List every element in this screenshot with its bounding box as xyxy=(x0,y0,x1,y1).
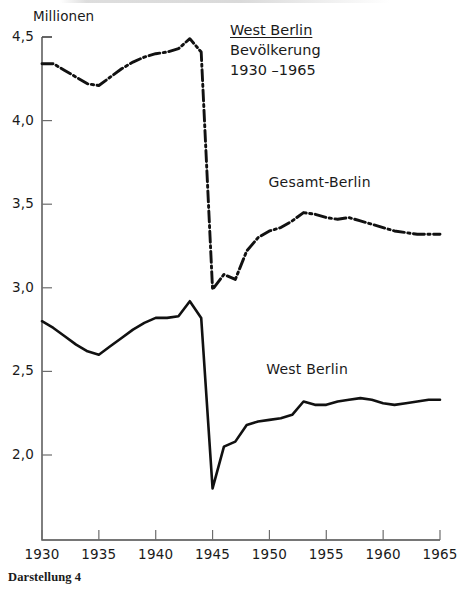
chart-title-block: West Berlin Bevölkerung 1930 –1965 xyxy=(230,20,321,80)
y-tick-label: 2,0 xyxy=(0,446,34,462)
x-tick-label: 1955 xyxy=(304,546,348,562)
chart-title-main: West Berlin xyxy=(230,20,321,40)
y-tick-label: 3,5 xyxy=(0,195,34,211)
page-edge-artifact xyxy=(60,0,390,3)
y-tick-label: 4,0 xyxy=(0,112,34,128)
chart-title-subject: Bevölkerung xyxy=(230,40,321,60)
series-label-gesamt-berlin: Gesamt-Berlin xyxy=(269,174,371,190)
x-tick-label: 1965 xyxy=(418,546,458,562)
y-axis-unit-label: Millionen xyxy=(33,8,94,24)
plot-area xyxy=(0,0,458,595)
series-label-west-berlin: West Berlin xyxy=(266,361,348,377)
y-tick-label: 4,5 xyxy=(0,28,34,44)
x-tick-label: 1940 xyxy=(134,546,178,562)
y-tick-label: 3,0 xyxy=(0,279,34,295)
chart-title-range: 1930 –1965 xyxy=(230,60,321,80)
x-tick-label: 1950 xyxy=(247,546,291,562)
y-tick-label: 2,5 xyxy=(0,362,34,378)
figure-caption: Darstellung 4 xyxy=(8,570,81,585)
series-line-west-berlin xyxy=(42,301,440,488)
x-tick-label: 1960 xyxy=(361,546,405,562)
x-tick-label: 1935 xyxy=(77,546,121,562)
population-chart-figure: Millionen West Berlin Bevölkerung 1930 –… xyxy=(0,0,458,595)
x-tick-label: 1930 xyxy=(20,546,64,562)
x-tick-label: 1945 xyxy=(191,546,235,562)
